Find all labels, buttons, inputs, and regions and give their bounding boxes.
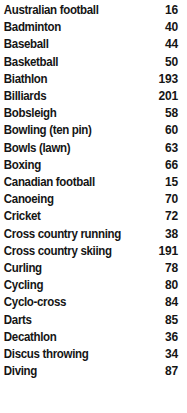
- index-entry-value: 85: [130, 312, 187, 329]
- index-entry-value: 191: [130, 243, 187, 260]
- index-entry-label: Bowling (ten pin): [0, 122, 125, 139]
- index-entry-label: Cricket: [0, 208, 125, 225]
- index-entry-value: 87: [130, 363, 187, 380]
- index-entry-label: Bobsleigh: [0, 105, 125, 122]
- index-entry-label: Cross country skiing: [0, 243, 125, 260]
- index-entry-value: 34: [130, 346, 187, 363]
- index-entry-label: Canoeing: [0, 191, 125, 208]
- index-entry-label: Canadian football: [0, 174, 125, 191]
- index-entry-value: 201: [130, 88, 187, 105]
- index-entry-value: 38: [130, 226, 187, 243]
- index-entry-row: Bowls (lawn)63: [0, 140, 187, 157]
- index-entry-row: Basketball50: [0, 54, 187, 71]
- index-entry-row: Baseball44: [0, 36, 187, 53]
- index-entry-row: Bobsleigh58: [0, 105, 187, 122]
- index-entry-row: Australian football16: [0, 2, 187, 19]
- index-entry-value: 40: [130, 19, 187, 36]
- index-entry-row: Badminton40: [0, 19, 187, 36]
- index-entry-label: Cycling: [0, 277, 125, 294]
- index-entry-label: Bowls (lawn): [0, 140, 125, 157]
- index-entry-value: 78: [130, 260, 187, 277]
- index-entry-row: Cyclo-cross84: [0, 294, 187, 311]
- index-entry-row: Curling78: [0, 260, 187, 277]
- index-entry-label: Billiards: [0, 88, 125, 105]
- index-entry-label: Cyclo-cross: [0, 294, 125, 311]
- index-entry-label: Curling: [0, 260, 125, 277]
- index-entry-row: Canoeing70: [0, 191, 187, 208]
- index-entry-row: Boxing66: [0, 157, 187, 174]
- index-entry-row: Discus throwing34: [0, 346, 187, 363]
- index-entry-row: Bowling (ten pin)60: [0, 122, 187, 139]
- index-entry-value: 70: [130, 191, 187, 208]
- index-entry-row: Biathlon193: [0, 71, 187, 88]
- index-entry-label: Discus throwing: [0, 346, 125, 363]
- index-entry-label: Cross country running: [0, 226, 125, 243]
- index-table-body: Australian football16Badminton40Baseball…: [0, 2, 187, 380]
- index-entry-value: 58: [130, 105, 187, 122]
- index-entry-value: 16: [130, 2, 187, 19]
- index-entry-row: Cricket72: [0, 208, 187, 225]
- index-entry-value: 36: [130, 329, 187, 346]
- index-entry-value: 15: [130, 174, 187, 191]
- index-entry-label: Biathlon: [0, 71, 125, 88]
- index-table: Australian football16Badminton40Baseball…: [0, 2, 187, 380]
- index-entry-value: 80: [130, 277, 187, 294]
- index-entry-row: Decathlon36: [0, 329, 187, 346]
- index-entry-value: 193: [130, 71, 187, 88]
- index-entry-row: Cycling80: [0, 277, 187, 294]
- index-entry-row: Billiards201: [0, 88, 187, 105]
- index-entry-label: Diving: [0, 363, 125, 380]
- index-entry-row: Darts85: [0, 312, 187, 329]
- index-entry-value: 63: [130, 140, 187, 157]
- index-entry-label: Decathlon: [0, 329, 125, 346]
- index-entry-label: Darts: [0, 312, 125, 329]
- index-entry-label: Baseball: [0, 36, 125, 53]
- index-entry-row: Diving87: [0, 363, 187, 380]
- index-entry-value: 84: [130, 294, 187, 311]
- index-entry-value: 66: [130, 157, 187, 174]
- index-entry-value: 44: [130, 36, 187, 53]
- index-entry-value: 50: [130, 54, 187, 71]
- index-entry-label: Badminton: [0, 19, 125, 36]
- index-entry-label: Australian football: [0, 2, 125, 19]
- index-entry-value: 60: [130, 122, 187, 139]
- index-page: Australian football16Badminton40Baseball…: [0, 0, 187, 413]
- index-entry-row: Cross country skiing191: [0, 243, 187, 260]
- index-entry-row: Canadian football15: [0, 174, 187, 191]
- index-entry-label: Boxing: [0, 157, 125, 174]
- index-entry-label: Basketball: [0, 54, 125, 71]
- index-entry-row: Cross country running38: [0, 226, 187, 243]
- index-entry-value: 72: [130, 208, 187, 225]
